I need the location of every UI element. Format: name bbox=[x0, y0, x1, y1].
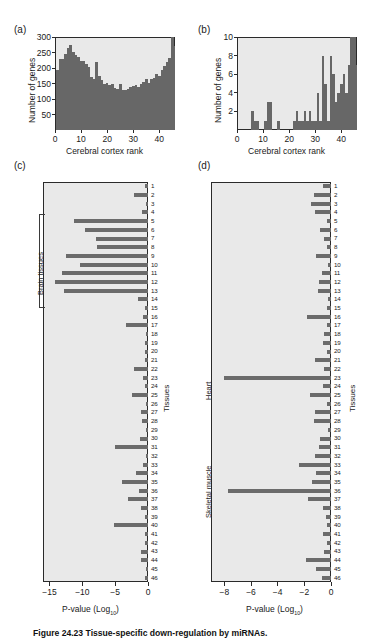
axis-tick-label: 10 bbox=[253, 134, 273, 144]
tissue-row-number: 26 bbox=[151, 401, 157, 407]
tissue-bar bbox=[145, 306, 148, 310]
tissue-bar bbox=[324, 237, 331, 241]
tissue-bar bbox=[66, 254, 148, 258]
tissue-bar bbox=[326, 515, 331, 519]
panel-a-plot bbox=[55, 37, 175, 130]
axis-tick bbox=[331, 582, 332, 586]
panel-d-tissues-label: Tissues bbox=[348, 385, 357, 412]
histogram-bar bbox=[257, 121, 260, 130]
tissue-bar bbox=[146, 454, 148, 458]
tissue-bar bbox=[143, 376, 148, 380]
tissue-bar bbox=[316, 254, 331, 258]
tissue-row-number: 37 bbox=[151, 496, 157, 502]
axis-tick-label: 10 bbox=[209, 32, 233, 42]
tissue-row-number: 16 bbox=[334, 314, 340, 320]
tissue-bar bbox=[134, 367, 148, 371]
tissue-bar bbox=[143, 315, 148, 319]
tissue-bar bbox=[141, 506, 148, 510]
tissue-bar bbox=[142, 210, 148, 214]
tissue-bar bbox=[308, 497, 331, 501]
axis-tick bbox=[49, 582, 50, 586]
tissue-row-number: 25 bbox=[334, 392, 340, 398]
axis-tick-label: −15 bbox=[37, 587, 63, 597]
axis-tick-label: 0 bbox=[227, 134, 247, 144]
axis-tick-label: 20 bbox=[279, 134, 299, 144]
axis-tick bbox=[148, 582, 149, 586]
tissue-row-number: 11 bbox=[151, 270, 157, 276]
axis-tick bbox=[251, 582, 252, 586]
panel-b-plot bbox=[237, 37, 357, 130]
tissue-row-number: 15 bbox=[334, 305, 340, 311]
tissue-bar bbox=[145, 532, 148, 536]
panel-c-x-label: P-value (Log10) bbox=[62, 604, 119, 616]
tissue-bar bbox=[122, 480, 148, 484]
tissue-row-number: 5 bbox=[334, 218, 337, 224]
tissue-bar bbox=[327, 350, 331, 354]
tissue-bar bbox=[323, 506, 331, 510]
panel-a-x-label: Cerebral cortex rank bbox=[66, 146, 143, 156]
tissue-row-number: 14 bbox=[151, 296, 157, 302]
tissue-row-number: 24 bbox=[334, 383, 340, 389]
tissue-bar bbox=[224, 376, 331, 380]
tissue-row-number: 43 bbox=[151, 548, 157, 554]
panel-b-y-label: Number of genes bbox=[213, 58, 223, 123]
tissue-row-number: 19 bbox=[334, 340, 340, 346]
tissue-row-number: 17 bbox=[151, 322, 157, 328]
panel-d-plot bbox=[211, 182, 331, 582]
tissue-row-number: 25 bbox=[151, 392, 157, 398]
tissue-bar bbox=[327, 541, 331, 545]
tissue-row-number: 9 bbox=[151, 253, 154, 259]
tissue-row-number: 23 bbox=[334, 375, 340, 381]
axis-tick bbox=[341, 130, 342, 133]
axis-tick bbox=[52, 114, 55, 115]
axis-tick bbox=[234, 92, 237, 93]
tissue-row-number: 13 bbox=[334, 288, 340, 294]
tissue-bar bbox=[55, 280, 148, 284]
tissue-bar bbox=[323, 384, 331, 388]
tissue-row-number: 41 bbox=[151, 531, 157, 537]
axis-tick bbox=[107, 130, 108, 133]
axis-tick-label: 30 bbox=[305, 134, 325, 144]
tissue-row-number: 12 bbox=[334, 279, 340, 285]
tissue-bar bbox=[115, 445, 148, 449]
axis-tick-label: 40 bbox=[331, 134, 351, 144]
tissue-bar bbox=[320, 228, 331, 232]
axis-tick bbox=[159, 130, 160, 133]
tissue-bar bbox=[145, 341, 148, 345]
axis-tick-label: 40 bbox=[149, 134, 169, 144]
panel-d-x-label-close: ) bbox=[300, 604, 303, 614]
tissue-bar bbox=[138, 297, 149, 301]
tissue-row-number: 3 bbox=[151, 201, 154, 207]
tissue-row-number: 24 bbox=[151, 383, 157, 389]
tissue-row-number: 12 bbox=[151, 279, 157, 285]
tissue-row-number: 46 bbox=[334, 575, 340, 581]
tissue-row-number: 20 bbox=[151, 348, 157, 354]
tissue-bar bbox=[306, 558, 331, 562]
tissue-bar bbox=[62, 271, 148, 275]
tissue-bar bbox=[323, 532, 331, 536]
panel-c-letter: (c) bbox=[14, 160, 26, 171]
tissue-row-number: 22 bbox=[334, 366, 340, 372]
tissue-row-number: 10 bbox=[151, 262, 157, 268]
tissue-bar bbox=[316, 567, 331, 571]
tissue-row-number: 2 bbox=[151, 192, 154, 198]
tissue-bar bbox=[145, 350, 148, 354]
panel-d-x-label-main: P-value (Log bbox=[246, 604, 294, 614]
tissue-row-number: 15 bbox=[151, 305, 157, 311]
tissue-bar bbox=[315, 410, 331, 414]
tissue-bar bbox=[327, 523, 331, 527]
axis-tick-label: −2 bbox=[291, 587, 317, 597]
axis-tick bbox=[82, 582, 83, 586]
tissue-bar bbox=[327, 323, 331, 327]
tissue-bar bbox=[114, 523, 148, 527]
tissue-row-number: 39 bbox=[151, 514, 157, 520]
tissue-bar bbox=[322, 576, 331, 580]
tissue-row-number: 7 bbox=[334, 235, 337, 241]
axis-tick-label: 30 bbox=[123, 134, 143, 144]
tissue-bar bbox=[324, 332, 331, 336]
panel-a-y-label: Number of genes bbox=[27, 58, 37, 123]
axis-tick-label: 300 bbox=[27, 32, 51, 42]
tissue-row-number: 36 bbox=[151, 488, 157, 494]
axis-tick-label: 10 bbox=[71, 134, 91, 144]
tissue-bar bbox=[80, 263, 148, 267]
